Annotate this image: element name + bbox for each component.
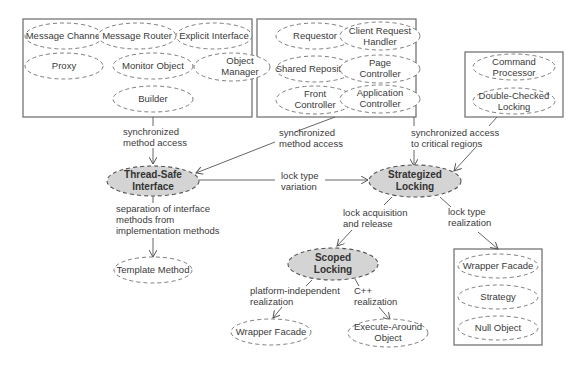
pattern-page-controller[interactable]: PageController [340,55,420,83]
pattern-execute-around-object[interactable]: Execute-AroundObject [348,319,428,347]
pattern-monitor-object[interactable]: Monitor Object [113,53,193,79]
pattern-wrapper-facade-group[interactable]: Wrapper Facade [458,254,538,278]
edge-label-strategized-to-scoped: lock acquisitionand release [343,207,407,229]
pattern-label: ScopedLocking [314,252,352,275]
pattern-diagram: Message Channel Message Router Explicit … [0,0,580,365]
edge-label-left-to-tsi: synchronizedmethod access [123,126,187,148]
edge-right-to-strategized-arrow [454,147,476,171]
pattern-label: StrategizedLocking [388,169,442,192]
pattern-proxy[interactable]: Proxy [25,53,103,79]
pattern-object-manager[interactable]: ObjectManager [194,53,270,81]
edge-scoped-to-wrapper-arrow [273,307,282,318]
pattern-application-controller[interactable]: ApplicationController [340,85,420,113]
pattern-message-channel[interactable]: Message Channel [25,23,103,49]
pattern-label: Monitor Object [122,60,184,71]
pattern-double-checked-locking[interactable]: Double-CheckedLocking [473,88,555,114]
pattern-message-router[interactable]: Message Router [98,23,176,49]
pattern-thread-safe-interface[interactable]: Thread-SafeInterface [107,166,199,196]
pattern-label: Thread-SafeInterface [124,169,182,192]
edge-strategized-to-scoped [384,197,392,205]
pattern-label: Message Router [102,30,172,41]
edge-strategized-to-scoped-arrow [337,230,352,246]
edge-label-strategized-to-realization: lock typerealization [448,206,491,228]
edge-middle-to-tsi-arrow [196,142,275,173]
edge-label-scoped-to-wrapper: platform-independentrealization [250,285,340,307]
pattern-explicit-interface[interactable]: Explicit Interface [176,23,252,49]
pattern-builder[interactable]: Builder [113,86,193,112]
pattern-strategy[interactable]: Strategy [458,285,538,309]
pattern-label: Requestor [293,30,337,41]
edge-strategized-to-realization-arrow [478,232,498,249]
edge-label-tsi-to-template: separation of interfacemethods fromimple… [116,203,220,236]
pattern-label: Message Channel [26,30,103,41]
pattern-command-processor[interactable]: CommandProcessor [473,54,555,80]
pattern-scoped-locking[interactable]: ScopedLocking [288,248,378,280]
pattern-client-request-handler[interactable]: Client RequestHandler [340,22,420,50]
pattern-label: Builder [138,93,168,104]
edge-label-middle-to-tsi: synchronizedmethod access [279,127,343,149]
pattern-wrapper-facade[interactable]: Wrapper Facade [231,319,311,345]
pattern-strategized-locking[interactable]: StrategizedLocking [369,165,461,197]
edge-scoped-to-execute-arrow [379,307,390,320]
pattern-label: ApplicationController [357,87,403,109]
pattern-label: CommandProcessor [492,56,536,78]
pattern-template-method[interactable]: Template Method [114,257,192,283]
pattern-label: Null Object [475,322,522,333]
pattern-label: Proxy [52,60,77,71]
pattern-label: Wrapper Facade [236,326,307,337]
pattern-label: Wrapper Facade [463,260,534,271]
pattern-null-object[interactable]: Null Object [458,316,538,340]
edge-label-scoped-to-execute: C++realization [354,285,397,307]
pattern-label: Explicit Interface [179,30,249,41]
edge-right-to-strategized [489,117,497,126]
pattern-label: ObjectManager [221,55,259,77]
edge-label-tsi-to-strategized: lock typevariation [281,170,319,192]
edge-label-to-strategized: synchronized accessto critical regions [411,127,499,149]
pattern-label: Strategy [480,291,516,302]
pattern-label: Template Method [117,264,190,275]
